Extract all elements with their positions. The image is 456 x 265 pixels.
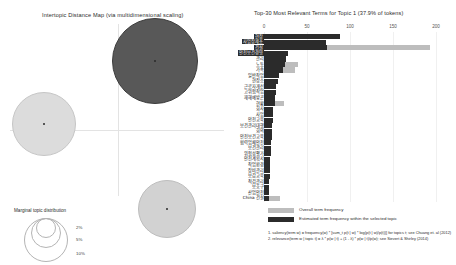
- bar-topic-frequency[interactable]: [264, 151, 271, 156]
- term-label[interactable]: 안전보건경영: [238, 50, 264, 55]
- bar-topic-frequency[interactable]: [264, 67, 283, 72]
- xaxis-tick-label: 200: [432, 24, 440, 29]
- term-label[interactable]: 작업환경: [248, 162, 264, 167]
- bar-topic-frequency[interactable]: [264, 40, 326, 45]
- bar-topic-frequency[interactable]: [264, 56, 286, 61]
- bar-chart-row[interactable]: China 건설: [232, 196, 443, 201]
- bar-topic-frequency[interactable]: [264, 101, 275, 106]
- topic-bubble-2[interactable]: [12, 92, 76, 156]
- bar-chart-footnotes: 1. saliency(term w) = frequency(w) * [su…: [268, 230, 456, 242]
- legend-swatch-total: [268, 208, 294, 213]
- bar-topic-frequency[interactable]: [264, 185, 269, 190]
- footnote-relevance: 2. relevance(term w | topic t) = λ * p(w…: [268, 236, 456, 242]
- xaxis-tick-label: 150: [389, 24, 397, 29]
- term-label[interactable]: 안전보건교육: [240, 134, 264, 139]
- bar-topic-frequency[interactable]: [264, 174, 270, 179]
- bar-topic-frequency[interactable]: [264, 168, 270, 173]
- term-label[interactable]: 가속: [256, 67, 264, 72]
- bar-topic-frequency[interactable]: [264, 134, 272, 139]
- xaxis-tick-label: 50: [304, 24, 309, 29]
- term-label[interactable]: 보건관리: [248, 145, 264, 150]
- topic-bubble-1[interactable]: [112, 18, 198, 104]
- intertopic-map-title: Intertopic Distance Map (via multidimens…: [42, 12, 232, 18]
- marginal-label-10: 10%: [76, 251, 85, 256]
- term-label[interactable]: 현황: [256, 101, 264, 106]
- bar-chart-title: Top-30 Most Relevant Terms for Topic 1 (…: [254, 10, 444, 16]
- term-label[interactable]: 장비관리: [248, 168, 264, 173]
- term-label[interactable]: 적검관리: [248, 179, 264, 184]
- marginal-label-5: 5%: [76, 237, 82, 242]
- term-label[interactable]: 안전교육: [248, 117, 264, 122]
- bar-topic-frequency[interactable]: [264, 112, 273, 117]
- term-label[interactable]: 보감교육: [248, 173, 264, 178]
- bar-topic-frequency[interactable]: [264, 118, 273, 123]
- legend-label-topic: Estimated term frequency within the sele…: [299, 216, 397, 221]
- bar-topic-frequency[interactable]: [264, 45, 327, 50]
- bar-topic-frequency[interactable]: [264, 79, 278, 84]
- bar-topic-frequency[interactable]: [264, 123, 272, 128]
- term-label[interactable]: 회의: [256, 128, 264, 133]
- legend-row-topic: Estimated term frequency within the sele…: [268, 215, 443, 224]
- bar-topic-frequency[interactable]: [264, 190, 269, 195]
- bar-topic-frequency[interactable]: [264, 62, 285, 67]
- term-label[interactable]: 안전계획서: [244, 156, 264, 161]
- legend-label-total: Overall term frequency: [299, 207, 343, 212]
- intertopic-distance-map-panel: Intertopic Distance Map (via multidimens…: [0, 0, 232, 265]
- top-terms-panel: Top-30 Most Relevant Terms for Topic 1 (…: [232, 0, 443, 265]
- term-label[interactable]: 재해예방곤: [244, 95, 264, 100]
- term-label[interactable]: China 건설: [243, 195, 264, 200]
- legend-swatch-topic: [268, 217, 294, 222]
- bar-topic-frequency[interactable]: [264, 146, 271, 151]
- term-label[interactable]: 회사: [256, 106, 264, 111]
- term-label[interactable]: 고위험작업: [244, 89, 264, 94]
- term-label[interactable]: 사업장제조: [242, 39, 264, 44]
- bar-topic-frequency[interactable]: [264, 34, 340, 39]
- bar-topic-frequency[interactable]: [264, 51, 288, 56]
- topic-bubble-center: [166, 208, 168, 210]
- bar-topic-frequency[interactable]: [264, 129, 272, 134]
- bar-topic-frequency[interactable]: [264, 196, 269, 201]
- term-label[interactable]: 관리: [256, 56, 264, 61]
- topic-bubble-center: [43, 123, 45, 125]
- bar-chart-legend: Overall term frequency Estimated term fr…: [268, 206, 443, 224]
- marginal-circle-2: [36, 218, 56, 238]
- term-label[interactable]: 노동: [256, 62, 264, 67]
- topic-bubble-3[interactable]: [138, 180, 196, 238]
- bar-topic-frequency[interactable]: [264, 95, 275, 100]
- bar-chart-plot[interactable]: 050100150200 현장사업장제조건설안전보건경영관리노동가속일반작업현장…: [232, 22, 443, 202]
- bar-topic-frequency[interactable]: [264, 140, 271, 145]
- marginal-legend-title: Marginal topic distribution: [14, 208, 66, 213]
- intertopic-map-plot[interactable]: PC2 PC1: [8, 22, 226, 198]
- marginal-topic-distribution-legend: Marginal topic distribution 2% 5% 10%: [10, 208, 120, 260]
- term-label[interactable]: 현장소: [252, 78, 264, 83]
- bar-topic-frequency[interactable]: [264, 157, 270, 162]
- bar-topic-frequency[interactable]: [264, 162, 270, 167]
- bar-topic-frequency[interactable]: [264, 90, 276, 95]
- bar-topic-frequency[interactable]: [264, 84, 276, 89]
- legend-row-total: Overall term frequency: [268, 206, 443, 215]
- xaxis-tick-label: 0: [263, 24, 266, 29]
- bar-topic-frequency[interactable]: [264, 107, 273, 112]
- term-label[interactable]: 보호구: [252, 184, 264, 189]
- topic-bubble-center: [154, 60, 156, 62]
- marginal-label-2: 2%: [76, 225, 82, 230]
- bar-topic-frequency[interactable]: [264, 179, 269, 184]
- xaxis-tick-label: 100: [346, 24, 354, 29]
- bar-topic-frequency[interactable]: [264, 73, 279, 78]
